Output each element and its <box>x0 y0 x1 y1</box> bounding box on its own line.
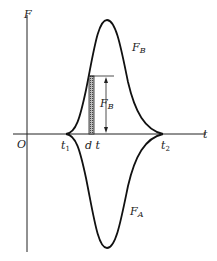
t-axis-label: t <box>203 128 208 141</box>
curve-fa <box>66 134 163 248</box>
t1-label: t1 <box>61 139 70 153</box>
impulse-strip <box>89 76 94 134</box>
fa-curve-label: FA <box>129 205 144 219</box>
dt-label: d t <box>85 139 101 152</box>
f-axis-label: F <box>23 8 32 21</box>
fb-curve-label: FB <box>131 41 146 55</box>
strip-height-label: FB <box>99 97 114 111</box>
impulse-force-diagram: F t O t1 t2 d t FB FA FB <box>0 0 217 261</box>
curve-fb <box>66 20 163 134</box>
arrow-head-down-icon <box>104 127 108 133</box>
diagram-canvas: F t O t1 t2 d t FB FA FB <box>0 0 217 261</box>
arrow-head-up-icon <box>104 77 108 83</box>
origin-label: O <box>17 138 26 151</box>
t2-label: t2 <box>161 139 170 153</box>
